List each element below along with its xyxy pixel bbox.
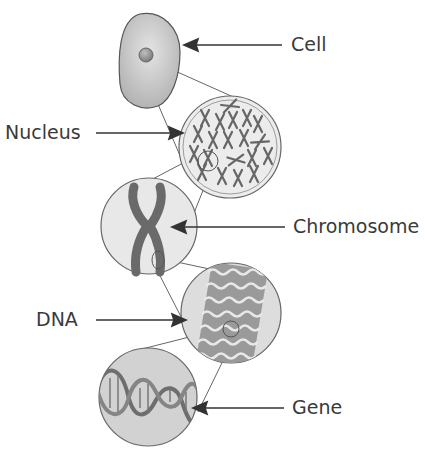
nucleus-illustration bbox=[179, 96, 281, 198]
dna-illustration bbox=[181, 262, 281, 368]
chromosome-label: Chromosome bbox=[293, 217, 419, 236]
cell-arrowhead-icon bbox=[184, 39, 198, 51]
dna-label: DNA bbox=[36, 310, 78, 329]
cell-illustration bbox=[119, 13, 180, 108]
cell-label: Cell bbox=[291, 35, 327, 54]
nucleus-label: Nucleus bbox=[5, 123, 81, 142]
gene-illustration bbox=[98, 348, 198, 446]
cell-nucleus bbox=[139, 48, 153, 62]
gene-label: Gene bbox=[292, 398, 342, 417]
